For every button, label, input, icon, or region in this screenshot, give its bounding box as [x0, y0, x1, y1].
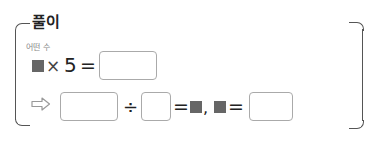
answer-box-dividend[interactable]: [60, 92, 118, 121]
equals-sign-2: =: [228, 95, 244, 117]
right-bracket-bottom: [349, 120, 364, 129]
answer-box-1[interactable]: [99, 51, 157, 80]
section-title: 풀이: [32, 12, 60, 32]
unknown-square-icon: [214, 101, 226, 113]
comma: ,: [203, 97, 208, 119]
right-bracket-line: [362, 29, 363, 121]
answer-box-divisor[interactable]: [141, 92, 171, 121]
left-bracket-bottom: [15, 118, 30, 126]
right-arrow-icon: [31, 97, 51, 111]
unknown-number-label: 어떤 수: [26, 43, 50, 53]
equals-sign-1: =: [173, 95, 189, 117]
left-bracket-top: [15, 23, 30, 32]
left-bracket-line: [15, 30, 16, 120]
divide-sign: ÷: [123, 96, 138, 118]
equals-sign: =: [80, 54, 96, 76]
times-sign: ×: [46, 55, 60, 77]
unknown-square-icon: [190, 101, 202, 113]
unknown-square-icon: [32, 60, 44, 72]
number-five: 5: [64, 54, 77, 76]
answer-box-result[interactable]: [249, 92, 293, 121]
